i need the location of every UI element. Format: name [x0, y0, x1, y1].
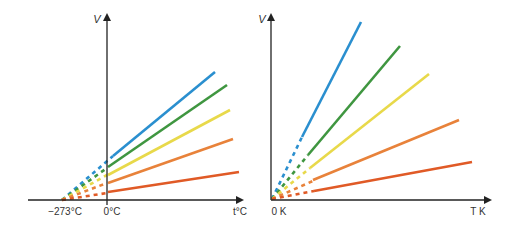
right-line-blue	[302, 22, 361, 137]
right-dashed-extrapolations	[272, 137, 314, 199]
left-x-axis-label: t°C	[233, 206, 247, 217]
left-chart-celsius: V −273°C 0°C t°C	[28, 13, 247, 217]
right-chart-kelvin: V 0 K T K	[258, 13, 490, 217]
charles-law-figure: V −273°C 0°C t°C V 0 K T K	[0, 0, 514, 230]
right-line-red	[314, 162, 472, 191]
left-line-yellow-dashed	[62, 175, 107, 200]
left-solid-lines	[108, 72, 239, 192]
left-line-blue	[113, 72, 215, 156]
right-solid-lines	[302, 22, 472, 191]
left-line-green	[108, 85, 227, 167]
left-tick-zero: 0°C	[104, 206, 121, 217]
right-line-orange	[313, 120, 459, 180]
left-line-yellow	[108, 110, 230, 175]
left-tick-neg273: −273°C	[48, 206, 82, 217]
right-y-axis-label: V	[258, 13, 267, 25]
right-tick-zero: 0 K	[271, 206, 286, 217]
left-dashed-extrapolations	[62, 156, 113, 200]
left-y-axis-label: V	[93, 13, 102, 25]
right-x-axis-label: T K	[470, 206, 486, 217]
